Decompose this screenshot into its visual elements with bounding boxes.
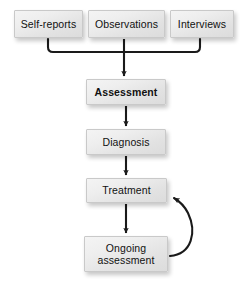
connector-ongoing-to-treatment-feedback xyxy=(170,198,192,256)
connector-interviews-to-merge xyxy=(124,39,200,52)
node-self-reports-label: Self-reports xyxy=(19,18,78,31)
node-treatment-label: Treatment xyxy=(100,184,152,197)
node-ongoing-assessment-line1: Ongoing xyxy=(106,242,146,254)
node-treatment[interactable]: Treatment xyxy=(86,178,167,203)
node-assessment[interactable]: Assessment xyxy=(86,79,166,105)
node-diagnosis-label: Diagnosis xyxy=(100,136,151,149)
node-assessment-label: Assessment xyxy=(93,86,160,99)
node-interviews-label: Interviews xyxy=(176,18,228,31)
node-ongoing-assessment-label: Ongoing assessment xyxy=(95,242,156,267)
node-ongoing-assessment-line2: assessment xyxy=(97,254,154,266)
flowchart-canvas: Self-reports Observations Interviews Ass… xyxy=(0,0,248,284)
connector-self-reports-to-merge xyxy=(48,39,124,52)
node-interviews[interactable]: Interviews xyxy=(170,10,234,38)
node-self-reports[interactable]: Self-reports xyxy=(14,10,83,38)
node-observations[interactable]: Observations xyxy=(88,10,165,38)
node-diagnosis[interactable]: Diagnosis xyxy=(86,129,166,155)
node-ongoing-assessment[interactable]: Ongoing assessment xyxy=(84,236,168,272)
node-observations-label: Observations xyxy=(93,18,160,31)
